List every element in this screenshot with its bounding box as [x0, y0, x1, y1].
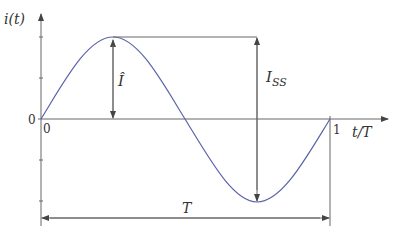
y-origin-label: 0 — [28, 113, 36, 127]
peak-to-peak-label: ISS — [265, 68, 287, 89]
waveform-diagram: i(t) t/T 0 0 1 Î ISS T — [0, 0, 409, 238]
y-axis-label: i(t) — [4, 11, 25, 27]
waveform-svg: i(t) t/T 0 0 1 Î ISS T — [0, 0, 409, 238]
peak-label: Î — [117, 72, 125, 90]
x-axis-label: t/T — [352, 124, 373, 140]
x-origin-label: 0 — [43, 122, 51, 136]
x-end-label: 1 — [333, 123, 341, 137]
period-label: T — [182, 200, 193, 216]
